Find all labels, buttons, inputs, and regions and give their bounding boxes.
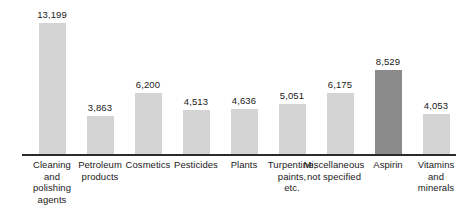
category-label: Vitaminsandminerals xyxy=(405,159,467,194)
category-label-line: and xyxy=(405,171,467,183)
bar-slot: 6,200 xyxy=(124,0,172,156)
bar[interactable] xyxy=(183,110,210,155)
bar-slot: 3,863 xyxy=(76,0,124,156)
category-label: Miscellaneousnot specified xyxy=(303,159,365,182)
bar-chart: 13,1993,8636,2004,5134,6365,0516,1758,52… xyxy=(0,0,468,210)
bar-value-label: 6,175 xyxy=(316,79,364,90)
bar[interactable] xyxy=(135,93,162,155)
plot-area: 13,1993,8636,2004,5134,6365,0516,1758,52… xyxy=(0,0,468,156)
category-label-line: products xyxy=(69,171,131,183)
bar-slot: 4,636 xyxy=(220,0,268,156)
bar-value-label: 3,863 xyxy=(76,102,124,113)
x-axis-baseline xyxy=(22,154,456,156)
bar[interactable] xyxy=(327,93,354,155)
bar[interactable] xyxy=(279,104,306,155)
bar-value-label: 6,200 xyxy=(124,79,172,90)
category-label-line: polishing xyxy=(21,182,83,194)
bar-slot: 4,053 xyxy=(412,0,460,156)
bar-slot: 5,051 xyxy=(268,0,316,156)
bar-slot: 4,513 xyxy=(172,0,220,156)
category-label-line: not specified xyxy=(303,171,365,183)
category-labels: CleaningandpolishingagentsPetroleumprodu… xyxy=(0,159,468,210)
bar-value-label: 8,529 xyxy=(364,56,412,67)
bar-slot: 13,199 xyxy=(28,0,76,156)
bar-value-label: 4,636 xyxy=(220,95,268,106)
bar-slot: 8,529 xyxy=(364,0,412,156)
bar-value-label: 4,053 xyxy=(412,100,460,111)
bar-slot: 6,175 xyxy=(316,0,364,156)
bar[interactable] xyxy=(87,116,114,155)
bar-value-label: 4,513 xyxy=(172,96,220,107)
category-label-line: etc. xyxy=(261,182,323,194)
category-label-line: Miscellaneous xyxy=(303,159,365,171)
bar[interactable] xyxy=(423,114,450,155)
category-label-line: minerals xyxy=(405,182,467,194)
bar-value-label: 13,199 xyxy=(28,9,76,20)
bar-value-label: 5,051 xyxy=(268,90,316,101)
category-label-line: agents xyxy=(21,194,83,206)
bar-highlighted[interactable] xyxy=(375,70,402,155)
bar[interactable] xyxy=(231,109,258,155)
category-label-line: Vitamins xyxy=(405,159,467,171)
bar[interactable] xyxy=(39,23,66,155)
